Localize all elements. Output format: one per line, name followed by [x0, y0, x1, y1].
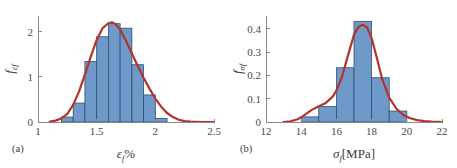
y-tick-label: 0 [256, 116, 262, 128]
panel-label: (b) [240, 143, 253, 155]
x-axis-title-unit: % [124, 146, 135, 161]
panel-b: 12141618202200.10.20.30.4σf[MPa]fσf(b) [228, 0, 457, 168]
histogram-bar [108, 24, 120, 122]
x-tick-label: 16 [331, 125, 343, 137]
x-tick-label: 14 [296, 125, 308, 137]
x-tick-label: 1 [35, 125, 41, 137]
plot-a: 11.522.5012εf%fεf(a) [0, 0, 229, 168]
histogram-bar [319, 107, 337, 122]
x-axis-title-unit: [MPa] [342, 146, 375, 161]
x-tick-label: 18 [366, 125, 378, 137]
y-tick-label: 0.2 [247, 69, 261, 81]
panel-a: 11.522.5012εf%fεf(a) [0, 0, 229, 168]
x-tick-label: 20 [401, 125, 413, 137]
y-tick-label: 0.4 [247, 23, 261, 35]
plot-b: 12141618202200.10.20.30.4σf[MPa]fσf(b) [228, 0, 457, 168]
x-tick-label: 2 [153, 125, 159, 137]
histogram-bar [372, 78, 390, 122]
y-tick-label: 0.1 [247, 93, 261, 105]
y-tick-label: 0.3 [247, 46, 261, 58]
histogram-bar [155, 118, 167, 122]
histogram-bar [73, 103, 85, 122]
histogram-bars [61, 24, 167, 122]
histogram-bar [144, 95, 156, 122]
histogram-bar [301, 117, 319, 122]
histogram-bar [354, 21, 372, 122]
figure-container: 11.522.5012εf%fεf(a) 12141618202200.10.2… [0, 0, 457, 168]
y-axis-title: fεf [2, 63, 19, 74]
histogram-bar [336, 68, 354, 122]
x-tick-label: 12 [261, 125, 272, 137]
panel-label: (a) [12, 143, 24, 155]
y-axis-title-subscript: εf [9, 63, 19, 70]
x-tick-label: 1.5 [90, 125, 104, 137]
x-axis-title: σf[MPa] [333, 146, 375, 163]
y-axis-title-subscript: σf [237, 62, 247, 70]
y-tick-label: 0 [28, 116, 34, 128]
x-axis-title: εf% [117, 146, 136, 163]
histogram-bar [97, 37, 109, 122]
x-tick-label: 2.5 [207, 125, 221, 137]
y-axis-title: fσf [230, 62, 247, 74]
y-tick-label: 1 [28, 71, 34, 83]
x-tick-label: 22 [437, 125, 448, 137]
y-axis-ticks: 012 [28, 26, 42, 128]
y-tick-label: 2 [28, 26, 34, 38]
